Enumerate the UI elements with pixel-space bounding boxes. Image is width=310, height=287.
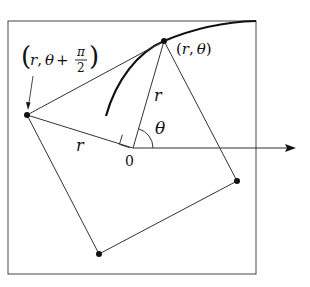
point-q-dot (24, 112, 30, 118)
label-q-close-paren: ) (89, 41, 99, 71)
label-origin: 0 (125, 153, 134, 169)
polar-curve (106, 21, 256, 116)
polar-rotation-diagram: (r,θ) ( r,θ+ π 2 ) r r θ 0 (0, 0, 310, 287)
label-r-vertical: r (154, 86, 163, 105)
point-right-dot (234, 178, 240, 184)
q-pointer-arrow (29, 76, 34, 106)
edge-right-bottom (99, 181, 237, 254)
q-pointer-arrowhead-icon (26, 102, 31, 110)
point-bottom-dot (96, 251, 102, 257)
edge-p-right (164, 41, 237, 181)
label-q-pi: π (76, 45, 86, 59)
label-theta: θ (155, 118, 165, 138)
edge-bottom-q (27, 115, 99, 254)
right-angle-marker (119, 135, 129, 148)
label-q-two: 2 (77, 61, 85, 75)
point-p-dot (161, 38, 167, 44)
label-q-body: r,θ+ (30, 51, 69, 69)
theta-arc (139, 129, 153, 148)
label-r-left: r (76, 136, 85, 155)
label-p: (r,θ) (176, 40, 212, 58)
